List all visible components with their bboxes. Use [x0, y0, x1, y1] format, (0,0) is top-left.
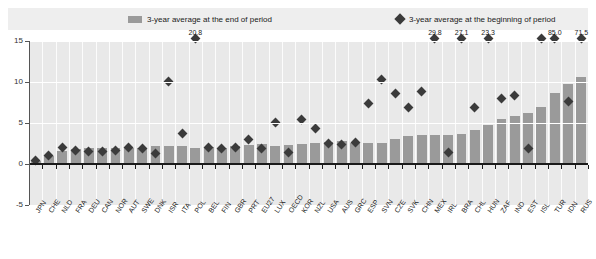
x-axis-tick — [362, 165, 363, 169]
y-axis-tick-label: -5 — [0, 200, 23, 209]
x-axis-tick — [189, 165, 190, 169]
x-axis-tick — [415, 165, 416, 169]
marker-zaf — [497, 94, 507, 104]
x-axis-tick — [56, 165, 57, 169]
x-axis-tick — [455, 165, 456, 169]
legend-label-bar: 3-year average at the end of period — [147, 15, 272, 24]
diamond-swatch-icon — [394, 13, 405, 24]
marker-nld — [57, 142, 67, 152]
x-axis-tick — [548, 165, 549, 169]
y-axis-tick-label: 0 — [0, 159, 23, 168]
x-axis-tick — [42, 165, 43, 169]
x-axis-tick — [508, 165, 509, 169]
x-axis-tick — [442, 165, 443, 169]
marker-deu — [84, 146, 94, 156]
chart-figure: 3-year average at the end of period 3-ye… — [0, 0, 596, 259]
x-axis-tick — [255, 165, 256, 169]
marker-chn — [417, 87, 427, 97]
x-axis-tick — [535, 165, 536, 169]
x-axis-tick — [242, 165, 243, 169]
marker-can — [97, 146, 107, 156]
marker-fin — [217, 144, 227, 154]
x-axis-tick — [109, 165, 110, 169]
v-gridline — [588, 41, 589, 205]
marker-irl — [443, 147, 453, 157]
x-axis-tick — [135, 165, 136, 169]
x-axis-tick — [82, 165, 83, 169]
marker-gbr — [230, 142, 240, 152]
marker-swe — [137, 143, 147, 153]
marker-svk — [403, 103, 413, 113]
point-label-mex: 29.8 — [428, 29, 442, 36]
y-axis-tick-label: 5 — [0, 118, 23, 127]
x-axis-tick — [149, 165, 150, 169]
marker-che — [44, 151, 54, 161]
x-axis-tick — [122, 165, 123, 169]
chart-legend: 3-year average at the end of period 3-ye… — [8, 8, 588, 30]
x-axis-tick — [309, 165, 310, 169]
y-axis-tick-label: 10 — [0, 77, 23, 86]
marker-prt — [244, 135, 254, 145]
marker-idn — [563, 96, 573, 106]
point-label-rus: 71.5 — [575, 29, 589, 36]
x-axis-tick — [215, 165, 216, 169]
bar-swatch-icon — [128, 16, 142, 23]
x-axis-tick — [322, 165, 323, 169]
marker-usa — [324, 138, 334, 148]
x-axis-tick — [69, 165, 70, 169]
x-axis-tick — [96, 165, 97, 169]
marker-esp — [363, 99, 373, 109]
h-gridline — [29, 123, 588, 124]
h-gridline — [29, 82, 588, 83]
x-axis-tick — [388, 165, 389, 169]
point-label-tur: 85.0 — [548, 29, 562, 36]
point-label-hun: 23.3 — [481, 29, 495, 36]
x-axis-tick — [495, 165, 496, 169]
h-gridline — [29, 41, 588, 42]
marker-cze — [390, 89, 400, 99]
x-axis-tick — [282, 165, 283, 169]
marker-fra — [71, 146, 81, 156]
x-axis-tick — [468, 165, 469, 169]
x-axis-tick — [175, 165, 176, 169]
x-axis-tick — [402, 165, 403, 169]
marker-nzl — [310, 123, 320, 133]
y-axis — [29, 41, 30, 205]
legend-label-diamond: 3-year average at the beginning of perio… — [409, 15, 555, 24]
y-axis-tick-label: 15 — [0, 36, 23, 45]
marker-ind — [510, 91, 520, 101]
marker-oecd — [284, 147, 294, 157]
y-axis-tick — [25, 205, 29, 206]
marker-eu27 — [257, 143, 267, 153]
x-axis-tick — [269, 165, 270, 169]
marker-dnk — [150, 149, 160, 159]
x-axis-tick — [482, 165, 483, 169]
x-axis-tick — [162, 165, 163, 169]
marker-nor — [111, 146, 121, 156]
x-axis-tick — [575, 165, 576, 169]
x-axis-tick — [521, 165, 522, 169]
plot-area — [29, 41, 588, 205]
x-axis-tick — [229, 165, 230, 169]
x-axis-tick — [428, 165, 429, 169]
x-axis-tick — [348, 165, 349, 169]
point-label-pol: 20.8 — [189, 29, 203, 36]
x-axis-tick — [375, 165, 376, 169]
x-axis-tick — [335, 165, 336, 169]
x-axis-tick — [588, 165, 589, 169]
marker-chl — [470, 102, 480, 112]
marker-est — [523, 144, 533, 154]
marker-bel — [204, 142, 214, 152]
marker-grc — [350, 137, 360, 147]
x-axis-tick — [202, 165, 203, 169]
marker-aus — [337, 139, 347, 149]
point-label-bra: 27.1 — [455, 29, 469, 36]
x-axis-tick — [561, 165, 562, 169]
marker-ita — [177, 128, 187, 138]
marker-aut — [124, 142, 134, 152]
x-axis-tick — [295, 165, 296, 169]
legend-entry-diamond: 3-year average at the beginning of perio… — [396, 8, 555, 30]
legend-entry-bar: 3-year average at the end of period — [128, 8, 272, 30]
